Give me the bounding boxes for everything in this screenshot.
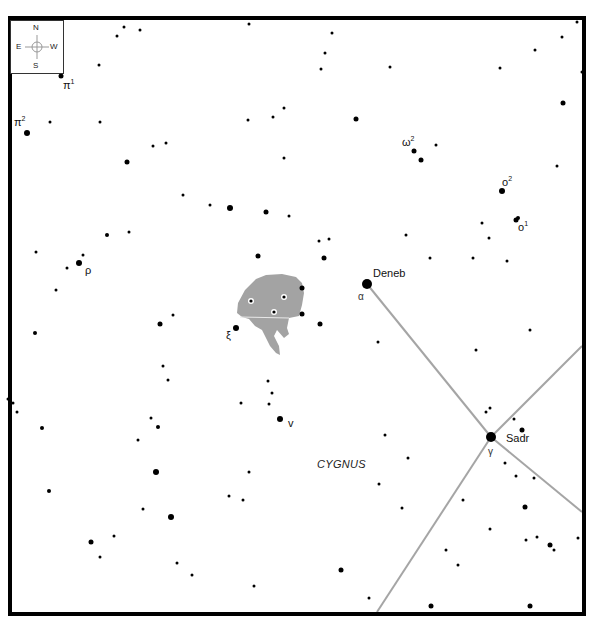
label-alpha: α <box>358 292 364 302</box>
label-deneb: Deneb <box>373 268 405 279</box>
label-omega2: ω2 <box>402 137 415 148</box>
label-rho: ρ <box>85 265 91 276</box>
compass-east: E <box>16 43 21 51</box>
compass-west: W <box>50 43 58 51</box>
nebula-shape <box>237 274 304 355</box>
label-o1: o1 <box>518 222 528 233</box>
compass: N S E W <box>10 20 64 74</box>
label-gamma: γ <box>488 447 493 457</box>
label-pi2: π2 <box>14 117 26 128</box>
compass-north: N <box>33 24 39 32</box>
label-pi1: π1 <box>63 80 75 91</box>
label-nu: v <box>288 418 294 429</box>
constellation-lines <box>367 284 582 612</box>
label-o2: o2 <box>502 177 512 188</box>
label-sadr: Sadr <box>506 433 529 444</box>
compass-south: S <box>33 62 38 70</box>
label-xi: ξ <box>226 330 231 341</box>
star-sadr <box>486 432 496 442</box>
star-chart <box>0 0 594 628</box>
compass-crosshair-icon <box>25 35 49 59</box>
star-deneb <box>362 279 372 289</box>
constellation-label: CYGNUS <box>317 459 366 470</box>
